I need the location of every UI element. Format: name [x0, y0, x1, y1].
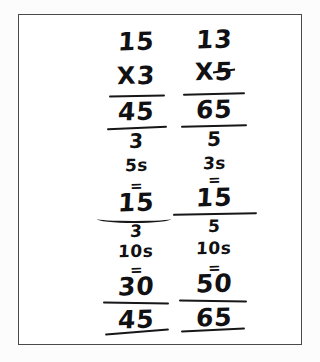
right-operator: X [195, 60, 214, 85]
left-total: 45 [117, 307, 155, 333]
right-product-row: 65 [171, 97, 257, 122]
right-step1-result: 15 [195, 185, 233, 211]
left-step2-unit: 10s [118, 243, 154, 261]
right-total: 65 [195, 305, 233, 331]
left-step2-result: 30 [117, 274, 155, 300]
screenshot-root: 15 X3 45 3 5s = [0, 0, 320, 362]
right-step2-result: 50 [195, 271, 233, 297]
left-step2-count-row: 3 [93, 223, 179, 240]
right-step2-result-row: 50 [171, 271, 257, 296]
left-multiplier: 3 [136, 63, 156, 88]
left-product: 45 [117, 99, 155, 125]
worksheet-paper-frame: 15 X3 45 3 5s = [18, 14, 302, 345]
right-product: 65 [195, 97, 233, 123]
left-step1-result: 15 [117, 190, 155, 216]
right-step1-unit: 3s [202, 155, 226, 172]
left-step1-count: 3 [128, 131, 143, 151]
right-step1-unit-row: 3s [171, 155, 257, 172]
left-multiplier-row: X3 [93, 63, 179, 88]
left-step2-result-row: 30 [93, 274, 179, 299]
left-step2-unit-row: 10s [93, 243, 179, 260]
right-multiplicand: 13 [195, 27, 233, 53]
left-step1-unit: 5s [124, 157, 148, 174]
right-multiplicand-row: 13 [171, 27, 257, 52]
left-multiplicand-row: 15 [93, 29, 179, 54]
left-step1-result-row: 15 [93, 190, 179, 215]
right-step2-unit-row: 10s [171, 240, 257, 257]
right-total-row: 65 [171, 305, 257, 330]
right-total-rule [179, 300, 247, 303]
right-step2-unit: 10s [196, 240, 232, 258]
right-step1-result-row: 15 [171, 185, 257, 210]
left-operator: X [117, 64, 136, 89]
right-step2-count-row: 5 [171, 218, 257, 235]
right-step2-count: 5 [207, 218, 220, 235]
left-multiplicand: 15 [117, 29, 155, 55]
left-product-row: 45 [93, 99, 179, 124]
left-step2-count: 3 [129, 223, 142, 240]
left-step1-count-row: 3 [93, 131, 179, 151]
right-step1-count-row: 5 [171, 129, 257, 149]
right-step1-count: 5 [206, 129, 221, 149]
handwritten-working: 15 X3 45 3 5s = [19, 15, 301, 344]
left-step1-unit-row: 5s [93, 157, 179, 174]
right-multiplier: 5 [214, 59, 234, 84]
right-multiplier-row: X5 [171, 59, 257, 84]
